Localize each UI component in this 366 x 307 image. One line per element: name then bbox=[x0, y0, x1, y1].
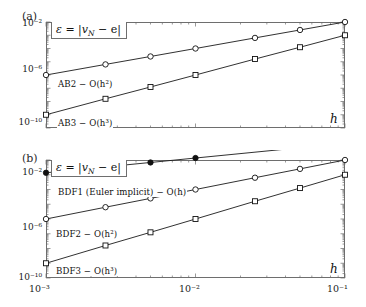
panel-b-error-definition: ε = |vN − e| bbox=[51, 160, 127, 177]
panel-b-xtick-2: 10⁻² bbox=[179, 283, 200, 294]
panel-a-curve-label-ab3: AB3 − O(h³) bbox=[57, 118, 113, 128]
panel-a-error-tail: − e| bbox=[95, 23, 121, 36]
panel-b-xlabel: h bbox=[330, 262, 338, 276]
panel-a: (a) 10⁻² 10⁻⁶ 10⁻¹⁰ ε = |vN − e| AB2 − O… bbox=[0, 0, 366, 152]
panel-b-xtick-3: 10⁻¹ bbox=[327, 283, 348, 294]
convergence-figure: (a) 10⁻² 10⁻⁶ 10⁻¹⁰ ε = |vN − e| AB2 − O… bbox=[0, 0, 366, 307]
panel-a-error-definition: ε = |vN − e| bbox=[51, 22, 127, 39]
panel-a-eq: = | bbox=[62, 23, 82, 36]
panel-b-xtick-1: 10⁻³ bbox=[29, 283, 50, 294]
panel-b-eq: = | bbox=[62, 161, 82, 174]
panel-b-curve-label-bdf1: BDF1 (Euler implicit) − O(h) bbox=[57, 187, 187, 197]
panel-b-curve-label-bdf3: BDF3 − O(h³) bbox=[55, 266, 118, 276]
panel-a-curve-label-ab2: AB2 − O(h²) bbox=[57, 79, 113, 89]
panel-b-error-tail: − e| bbox=[95, 161, 121, 174]
panel-a-xlabel: h bbox=[330, 112, 338, 126]
panel-b-curve-label-bdf2: BDF2 − O(h²) bbox=[55, 229, 118, 239]
panel-b: (b) 10⁻² 10⁻⁶ 10⁻¹⁰ ε = |vN − e| BDF1 (E… bbox=[0, 150, 366, 307]
